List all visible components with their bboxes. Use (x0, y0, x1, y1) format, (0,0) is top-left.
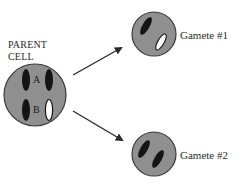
chromosome-label-a: A (33, 74, 40, 86)
gamete-2 (132, 132, 176, 176)
arrow-to-gamete-2 (73, 111, 122, 140)
parent-cell-label: PARENT CELL (8, 39, 47, 63)
chromosome-label-b: B (33, 104, 40, 116)
chromosome-b-left (22, 99, 30, 121)
gamete-1-body (132, 12, 176, 56)
gamete-2-label: Gamete #2 (180, 149, 228, 161)
arrow-to-gamete-1 (73, 48, 121, 75)
parent-cell-label-line2: CELL (8, 51, 47, 63)
chromosome-a-right (45, 69, 53, 91)
gamete-1-label: Gamete #1 (180, 29, 228, 41)
chromosome-b-right (45, 100, 52, 121)
meiosis-diagram: A B PARENT CELL Gamete #1 Gamete #2 (0, 0, 247, 184)
chromosome-a-left (22, 69, 30, 91)
gamete-1 (132, 12, 176, 56)
parent-cell-label-line1: PARENT (8, 39, 47, 51)
